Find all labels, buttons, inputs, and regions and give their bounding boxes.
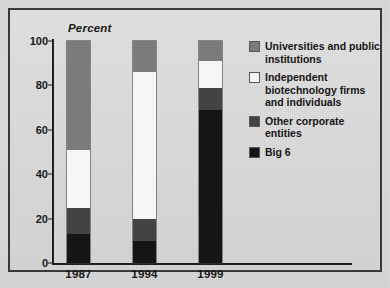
y-tick-mark-60 — [48, 129, 53, 130]
y-axis-tick-labels: 100806040200 — [14, 41, 48, 263]
bar-1987[interactable] — [67, 41, 90, 263]
plot-area — [52, 41, 238, 263]
bar-segment-1987-universities[interactable] — [67, 41, 90, 150]
bar-segment-1994-other[interactable] — [133, 219, 156, 241]
figure-caption — [0, 276, 390, 288]
y-tick-label-60: 60 — [18, 124, 48, 136]
chart-legend: Universities and public institutionsInde… — [250, 40, 382, 164]
legend-item-big6[interactable]: Big 6 — [250, 146, 382, 159]
y-tick-label-20: 20 — [18, 213, 48, 225]
bar-segment-1999-universities[interactable] — [199, 41, 222, 61]
bar-segment-1987-independent[interactable] — [67, 150, 90, 208]
legend-item-independent[interactable]: Independent biotechnology firms and indi… — [250, 71, 382, 109]
y-tick-mark-100 — [48, 41, 53, 42]
bar-segment-1987-other[interactable] — [67, 208, 90, 235]
legend-swatch-independent-icon — [250, 73, 259, 82]
bar-1999[interactable] — [199, 41, 222, 263]
legend-label-other: Other corporate entities — [265, 115, 382, 140]
bar-segment-1994-big6[interactable] — [133, 241, 156, 263]
chart-frame: Percent 100806040200 Universities and pu… — [8, 8, 382, 272]
y-tick-label-40: 40 — [18, 168, 48, 180]
bar-segment-1999-big6[interactable] — [199, 110, 222, 263]
y-tick-mark-40 — [48, 174, 53, 175]
y-axis-title: Percent — [68, 22, 112, 34]
y-tick-mark-0 — [48, 263, 53, 264]
y-tick-mark-80 — [48, 85, 53, 86]
bar-segment-1994-independent[interactable] — [133, 72, 156, 219]
figure-scan: Percent 100806040200 Universities and pu… — [0, 0, 390, 288]
y-tick-label-0: 0 — [18, 257, 48, 269]
bar-segment-1994-universities[interactable] — [133, 41, 156, 72]
y-tick-label-80: 80 — [18, 79, 48, 91]
legend-label-big6: Big 6 — [265, 146, 291, 159]
bar-segment-1999-independent[interactable] — [199, 61, 222, 88]
legend-item-universities[interactable]: Universities and public institutions — [250, 40, 382, 65]
bar-segment-1999-other[interactable] — [199, 88, 222, 110]
legend-label-independent: Independent biotechnology firms and indi… — [265, 71, 382, 109]
bar-1994[interactable] — [133, 41, 156, 263]
legend-label-universities: Universities and public institutions — [265, 40, 382, 65]
legend-swatch-universities-icon — [250, 42, 259, 51]
y-tick-mark-20 — [48, 218, 53, 219]
y-tick-label-100: 100 — [18, 35, 48, 47]
x-axis-line — [52, 263, 352, 265]
legend-swatch-other-icon — [250, 117, 259, 126]
bar-segment-1987-big6[interactable] — [67, 234, 90, 263]
legend-item-other[interactable]: Other corporate entities — [250, 115, 382, 140]
legend-swatch-big6-icon — [250, 148, 259, 157]
